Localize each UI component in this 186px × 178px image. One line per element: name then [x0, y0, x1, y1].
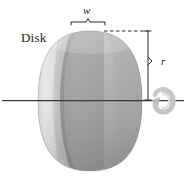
- label-width: w: [83, 5, 90, 16]
- label-radius: r: [161, 56, 165, 67]
- disk-top-highlight: [46, 26, 138, 54]
- disk-body: [30, 25, 156, 178]
- disk-rotation-figure: Disk w r: [0, 0, 186, 178]
- radius-dimension-icon: [144, 31, 152, 100]
- width-brace-icon: [71, 19, 105, 26]
- disk-illustration-svg: [0, 0, 186, 178]
- label-disk: Disk: [21, 31, 46, 44]
